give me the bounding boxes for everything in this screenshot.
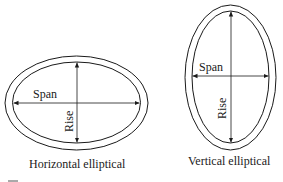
rise-label: Rise xyxy=(62,111,76,132)
diagram-canvas: Span Rise Horizontal elliptical Span Ris… xyxy=(0,0,283,182)
outer-ellipse xyxy=(185,5,276,150)
span-label: Span xyxy=(33,87,57,101)
caption-vertical-elliptical: Vertical elliptical xyxy=(188,154,271,168)
horizontal-elliptical-figure: Span Rise Horizontal elliptical xyxy=(5,56,148,171)
span-label: Span xyxy=(199,60,223,74)
inner-ellipse xyxy=(192,11,269,143)
vertical-elliptical-figure: Span Rise Vertical elliptical xyxy=(185,5,276,168)
caption-horizontal-elliptical: Horizontal elliptical xyxy=(29,157,126,171)
rise-label: Rise xyxy=(215,98,229,119)
inner-ellipse xyxy=(13,62,141,143)
